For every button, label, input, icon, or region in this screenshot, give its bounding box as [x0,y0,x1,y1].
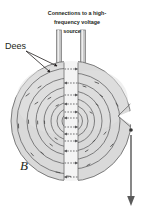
magnetic-field-label: B [20,158,28,173]
caption-line-3: source [63,28,81,34]
caption-line-1: Connections to a high- [48,10,107,16]
cyclotron-illustration: Connections to a high- frequency voltage… [0,0,149,213]
cyclotron-figure: Connections to a high- frequency voltage… [0,0,149,213]
field-origin-dot [129,128,133,132]
field-arrow-head [127,196,135,206]
dees-label: Dees [5,41,27,51]
caption-line-2: frequency voltage [54,19,100,25]
connection-rod-right [81,30,86,64]
